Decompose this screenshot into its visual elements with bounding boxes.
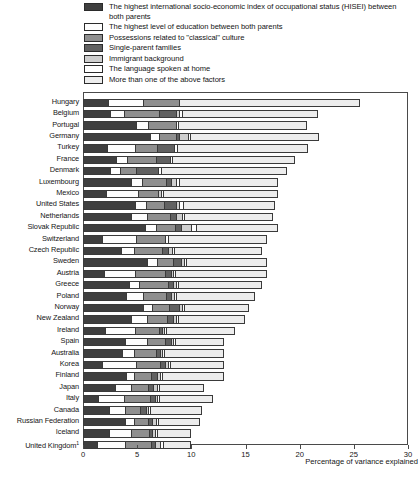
bar-segment xyxy=(180,99,360,107)
bar-segment xyxy=(148,338,166,346)
bar-segment xyxy=(83,327,106,335)
bar-segment xyxy=(128,156,156,164)
stacked-bar xyxy=(83,327,235,335)
bar-segment xyxy=(125,110,160,118)
bar-segment xyxy=(180,133,189,141)
bar-segment xyxy=(140,281,168,289)
chart-row xyxy=(83,143,408,154)
bar-segment xyxy=(148,213,171,221)
bar-segment xyxy=(175,247,262,255)
bar-segment xyxy=(83,178,132,186)
bar-segment xyxy=(160,133,177,141)
stacked-bar xyxy=(83,406,202,414)
stacked-bar xyxy=(83,167,287,175)
category-label: Korea xyxy=(0,358,79,369)
bar-segment xyxy=(144,292,168,300)
category-label: Mexico xyxy=(0,187,79,198)
bar-segment xyxy=(167,327,234,335)
category-label: United Kingdom1 xyxy=(0,438,79,452)
stacked-bar xyxy=(83,190,278,198)
bar-segment xyxy=(179,315,245,323)
stacked-bar xyxy=(83,338,224,346)
bar-segment xyxy=(179,121,307,129)
bar-segment xyxy=(83,144,108,152)
chart-row xyxy=(83,383,408,394)
bar-segment xyxy=(173,156,295,164)
bar-segment xyxy=(103,361,138,369)
category-label: Finland xyxy=(0,369,79,380)
chart-row xyxy=(83,166,408,177)
stacked-bar xyxy=(83,281,262,289)
bar-segment xyxy=(130,281,141,289)
bars-area xyxy=(83,92,408,445)
bar-segment xyxy=(148,258,158,266)
stacked-bar xyxy=(83,315,246,323)
bar-segment xyxy=(83,384,116,392)
bar-segment xyxy=(107,190,140,198)
stacked-bar xyxy=(83,247,262,255)
bar-segment xyxy=(83,270,105,278)
x-axis-tick-label: 20 xyxy=(295,450,303,459)
bar-segment xyxy=(158,144,175,152)
chart-row xyxy=(83,314,408,325)
bar-segment xyxy=(83,167,111,175)
category-label: Switzerland xyxy=(0,233,79,244)
chart-row xyxy=(83,120,408,131)
category-label: New Zealand xyxy=(0,312,79,323)
category-label: Ireland xyxy=(0,324,79,335)
x-axis-title: Percentage of variance explained xyxy=(305,457,418,466)
bar-segment xyxy=(83,429,110,437)
stacked-bar xyxy=(83,156,295,164)
chart-row xyxy=(83,98,408,109)
category-label: Spain xyxy=(0,335,79,346)
stacked-bar xyxy=(83,384,204,392)
bar-segment xyxy=(103,235,138,243)
bar-segment xyxy=(106,327,136,335)
chart-row xyxy=(83,337,408,348)
bar-segment xyxy=(121,167,137,175)
stacked-bar xyxy=(83,121,307,129)
bar-segment xyxy=(135,418,149,426)
bar-segment xyxy=(99,395,125,403)
stacked-bar xyxy=(83,349,224,357)
bar-segment xyxy=(83,201,136,209)
x-axis-tick-label: 5 xyxy=(135,450,139,459)
bar-segment xyxy=(163,372,224,380)
chart-row xyxy=(83,291,408,302)
chart-row xyxy=(83,360,408,371)
stacked-bar xyxy=(83,213,273,221)
bar-segment xyxy=(153,304,169,312)
bar-segment xyxy=(158,429,192,437)
bar-segment xyxy=(83,235,103,243)
bar-segment xyxy=(117,156,129,164)
bar-segment xyxy=(176,270,267,278)
chart-row xyxy=(83,109,408,120)
stacked-bar xyxy=(83,372,224,380)
stacked-bar xyxy=(83,178,278,186)
category-label: Luxembourg xyxy=(0,176,79,187)
bar-segment xyxy=(157,156,171,164)
stacked-bar xyxy=(83,133,319,141)
category-label: Canada xyxy=(0,404,79,415)
category-label: Hungary xyxy=(0,96,79,107)
bar-segment xyxy=(137,121,149,129)
bar-segment xyxy=(83,133,151,141)
stacked-bar xyxy=(83,395,213,403)
bar-segment xyxy=(147,201,165,209)
stacked-bar xyxy=(83,270,267,278)
bar-segment xyxy=(135,372,152,380)
bar-segment xyxy=(160,395,213,403)
bar-segment xyxy=(185,213,273,221)
category-label: Iceland xyxy=(0,426,79,437)
chart-row xyxy=(83,428,408,439)
category-label: France xyxy=(0,153,79,164)
bar-segment xyxy=(83,406,110,414)
bar-segment xyxy=(151,133,160,141)
bar-segment xyxy=(157,224,177,232)
bar-segment xyxy=(148,315,168,323)
bar-segment xyxy=(139,190,159,198)
chart-container: HungaryBelgiumPortugalGermanyTurkeyFranc… xyxy=(0,0,418,487)
x-axis-tick-label: 0 xyxy=(81,450,85,459)
bar-segment xyxy=(144,99,181,107)
bar-segment xyxy=(83,258,148,266)
